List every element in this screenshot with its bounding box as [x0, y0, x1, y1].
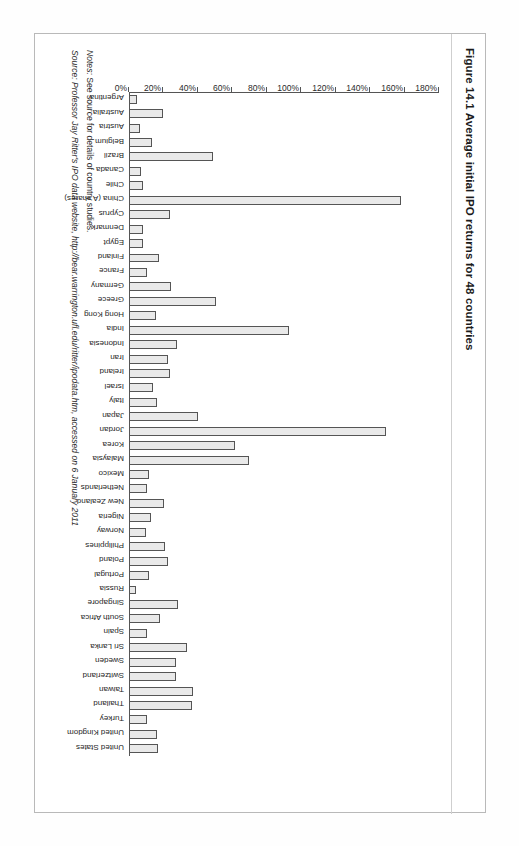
chart-bar — [129, 658, 176, 667]
chart-bar — [129, 456, 249, 465]
category-label: Italy — [109, 396, 124, 405]
category-label: Thailand — [93, 699, 124, 708]
chart-bar — [129, 95, 137, 104]
chart-bar — [129, 513, 151, 522]
page-title: Figure 14.1 Average initial IPO returns … — [464, 48, 476, 351]
figure-title-bar: Figure 14.1 Average initial IPO returns … — [451, 34, 485, 814]
category-label: Egypt — [103, 238, 123, 247]
chart-bar — [129, 427, 386, 436]
category-label: Korea — [102, 440, 123, 449]
category-label: Austria — [99, 122, 124, 131]
category-label: Poland — [99, 555, 124, 564]
category-label: Belgium — [95, 137, 124, 146]
chart-bar — [129, 484, 147, 493]
chart-bar — [129, 210, 170, 219]
chart-bar — [129, 542, 166, 551]
chart-bars-and-axis: 0%20%40%60%80%100%120%140%160%180%Argent… — [129, 92, 439, 756]
category-label: Russia — [99, 584, 123, 593]
notes-text: See source for details of country studie… — [85, 75, 95, 233]
source-label: Source: — [70, 50, 80, 80]
rotated-figure-wrapper: Figure 14.1 Average initial IPO returns … — [34, 33, 486, 813]
category-label: Canada — [95, 165, 123, 174]
figure-footer: Notes: See source for details of country… — [67, 50, 97, 794]
chart-bar — [129, 614, 160, 623]
axis-baseline — [129, 92, 130, 756]
chart-bar — [129, 369, 170, 378]
chart-bar — [129, 687, 193, 696]
chart-bar — [129, 297, 216, 306]
chart-bar — [129, 355, 168, 364]
chart-bar — [129, 600, 178, 609]
chart-bar — [129, 499, 164, 508]
category-label: India — [106, 324, 123, 333]
chart-bar — [129, 181, 143, 190]
chart-bar — [129, 383, 153, 392]
category-label: Nigeria — [98, 512, 123, 521]
chart-plot-area: 0%20%40%60%80%100%120%140%160%180%Argent… — [129, 92, 439, 756]
category-label: Iran — [110, 353, 124, 362]
chart-bar — [129, 254, 159, 263]
category-label: Sweden — [95, 656, 124, 665]
chart-bar — [129, 109, 163, 118]
category-label: Turkey — [99, 714, 123, 723]
category-label: Ireland — [99, 367, 123, 376]
category-label: Portugal — [94, 570, 124, 579]
figure-source: Source: Professor Jay Ritter's IPO data … — [67, 50, 82, 794]
category-label: Brazil — [103, 151, 123, 160]
chart-bar — [129, 586, 136, 595]
chart-bar — [129, 340, 177, 349]
chart-bar — [129, 239, 143, 248]
value-axis-line — [129, 92, 439, 93]
chart-bar — [129, 152, 213, 161]
chart-bar — [129, 167, 141, 176]
category-label: Jordan — [99, 425, 123, 434]
page-canvas: Figure 14.1 Average initial IPO returns … — [0, 0, 519, 846]
chart-bar — [129, 557, 168, 566]
chart-bar — [129, 701, 192, 710]
chart-bar — [129, 730, 157, 739]
category-label: France — [99, 266, 124, 275]
figure-panel: Figure 14.1 Average initial IPO returns … — [34, 33, 486, 813]
category-label: Norway — [96, 526, 123, 535]
chart-bar — [129, 715, 147, 724]
chart-bar — [129, 571, 149, 580]
chart-bar — [129, 138, 152, 147]
category-label: Chile — [105, 180, 123, 189]
chart-bar — [129, 412, 198, 421]
chart-bar — [129, 196, 401, 205]
notes-label: Notes: — [85, 50, 95, 75]
category-label: Cyprus — [98, 209, 123, 218]
chart-bar — [129, 268, 147, 277]
chart-bar — [129, 643, 187, 652]
chart-bar — [129, 441, 235, 450]
source-text: Professor Jay Ritter's IPO data website,… — [70, 80, 80, 526]
category-label: Australia — [92, 108, 123, 117]
chart-bar — [129, 672, 176, 681]
chart-bar — [129, 528, 146, 537]
chart-bar — [129, 124, 140, 133]
category-label: Taiwan — [99, 685, 124, 694]
chart-bar — [129, 470, 149, 479]
category-label: Japan — [102, 411, 124, 420]
chart-bar — [129, 629, 147, 638]
chart-bar — [129, 744, 158, 753]
category-label: Finland — [97, 252, 123, 261]
chart-bar — [129, 225, 143, 234]
figure-notes: Notes: See source for details of country… — [82, 50, 97, 794]
chart-bar — [129, 282, 171, 291]
category-label: Israel — [104, 382, 124, 391]
category-label: Mexico — [98, 469, 123, 478]
chart-bar — [129, 398, 157, 407]
category-label: Greece — [97, 295, 123, 304]
category-label: Spain — [103, 627, 123, 636]
chart-bar — [129, 326, 289, 335]
chart-bar — [129, 311, 156, 320]
